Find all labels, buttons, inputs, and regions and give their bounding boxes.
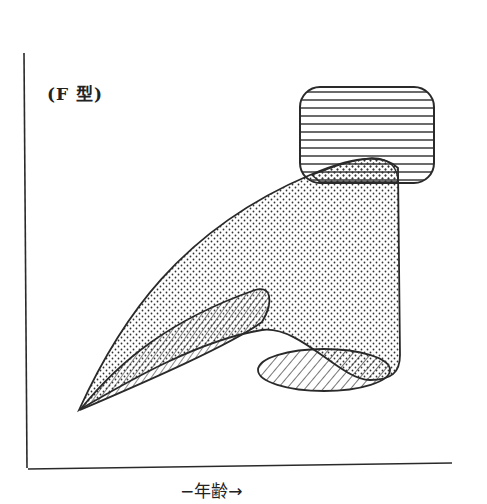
diagonal-hatch-ellipse [258, 349, 390, 391]
x-axis [28, 463, 452, 469]
y-axis [24, 53, 27, 468]
type-label: (F 型) [47, 80, 103, 105]
x-axis-label: −年齢→ [180, 477, 243, 502]
diagram-canvas [0, 0, 487, 504]
